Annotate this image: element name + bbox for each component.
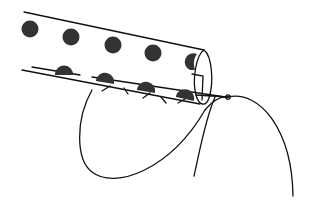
dot-half xyxy=(137,82,155,93)
thread-tail xyxy=(228,96,293,196)
stitch xyxy=(124,88,128,94)
dot xyxy=(22,21,39,38)
dot-half xyxy=(96,73,114,84)
thread-end xyxy=(194,97,215,176)
dot xyxy=(105,37,122,54)
dot xyxy=(63,29,80,46)
dot xyxy=(145,45,162,62)
dot-half xyxy=(55,65,73,75)
stitch xyxy=(102,86,110,91)
sewing-illustration xyxy=(0,0,313,215)
